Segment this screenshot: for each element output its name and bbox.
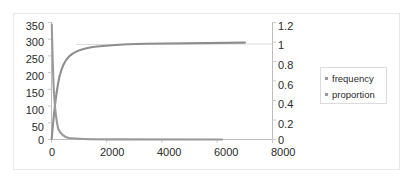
legend-item-frequency[interactable]: frequency <box>325 71 374 86</box>
legend-label: frequency <box>332 74 374 84</box>
tick-marks <box>48 23 276 144</box>
data-series-group <box>52 25 272 140</box>
legend-label: proportion <box>332 90 375 100</box>
axis-lines <box>52 22 273 140</box>
legend-marker-icon <box>325 77 328 80</box>
legend-item-proportion[interactable]: proportion <box>325 87 375 102</box>
series-frequency-line <box>52 25 222 140</box>
chart-legend: frequency proportion <box>320 67 387 104</box>
series-proportion-line <box>52 43 245 139</box>
legend-marker-icon <box>325 93 328 96</box>
